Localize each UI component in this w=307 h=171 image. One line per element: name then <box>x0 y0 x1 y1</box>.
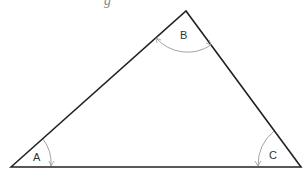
cut-off-caption: g <box>104 0 111 8</box>
angle-b-label: B <box>180 29 187 41</box>
triangle-outline <box>11 11 301 167</box>
triangle-diagram: g A B C <box>0 0 307 171</box>
angle-c-label: C <box>269 149 277 161</box>
angle-a-arc <box>43 139 51 166</box>
angle-a-label: A <box>33 151 41 163</box>
